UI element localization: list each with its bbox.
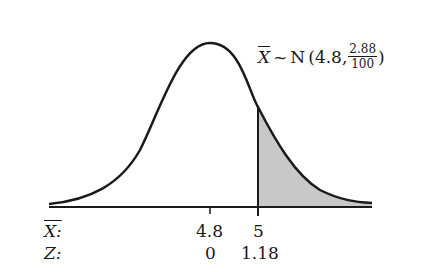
open-paren: ( — [308, 47, 315, 67]
mean-value: 4.8, — [315, 47, 347, 67]
z-label-zero: 0 — [205, 245, 216, 262]
variance-denominator: 100 — [351, 57, 374, 70]
dist-name: N — [290, 47, 305, 67]
shaded-tail-region — [258, 107, 372, 207]
variance-numerator: 2.88 — [348, 43, 377, 57]
close-paren: ) — [378, 47, 385, 67]
tilde: ~ — [273, 47, 287, 67]
variance-fraction: 2.88 100 — [348, 43, 377, 70]
z-label-cutoff: 1.18 — [241, 245, 279, 262]
z-row-label: Z: — [44, 245, 62, 262]
xbar-row-label: X: — [44, 223, 62, 240]
tick-label-mean: 4.8 — [196, 223, 223, 240]
xbar-symbol: X — [258, 47, 270, 67]
tick-label-cutoff: 5 — [253, 223, 264, 240]
distribution-annotation: X ~ N ( 4.8, 2.88 100 ) — [258, 43, 385, 70]
